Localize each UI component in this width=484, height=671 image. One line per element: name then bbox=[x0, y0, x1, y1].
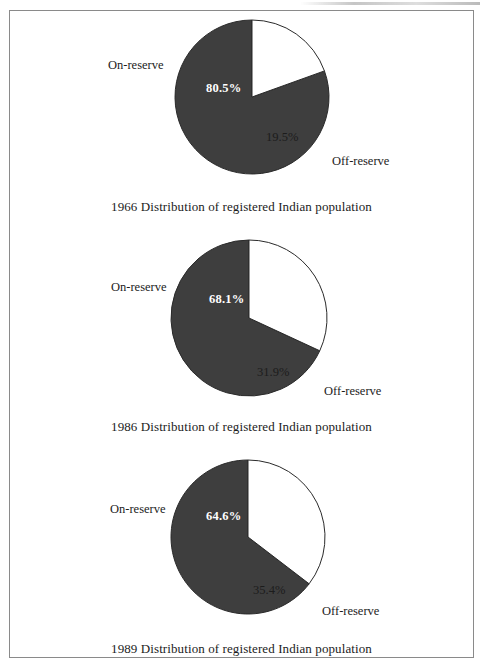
category-label-on-reserve: On-reserve bbox=[111, 280, 167, 295]
category-label-off-reserve: Off-reserve bbox=[322, 604, 379, 619]
slice-value-on-reserve: 64.6% bbox=[206, 509, 241, 524]
slice-value-off-reserve: 19.5% bbox=[266, 130, 298, 145]
slice-value-off-reserve: 31.9% bbox=[257, 365, 289, 380]
pie-slices-1989 bbox=[171, 460, 325, 614]
pie-slices-1966 bbox=[175, 20, 329, 174]
scan-artifact bbox=[300, 2, 480, 5]
slice-value-on-reserve: 80.5% bbox=[206, 81, 241, 96]
pie-area-1989: 64.6% 35.4% On-reserve Off-reserve bbox=[10, 459, 473, 631]
slice-value-off-reserve: 35.4% bbox=[253, 583, 285, 598]
pie-chart-1986: 68.1% 31.9% On-reserve Off-reserve 1986 … bbox=[10, 239, 473, 451]
category-label-off-reserve: Off-reserve bbox=[324, 384, 381, 399]
pie-chart-1989: 64.6% 35.4% On-reserve Off-reserve 1989 … bbox=[10, 459, 473, 671]
pie-area-1966: 80.5% 19.5% On-reserve Off-reserve bbox=[10, 19, 473, 191]
slice-value-on-reserve: 68.1% bbox=[209, 292, 244, 307]
pie-svg-1989 bbox=[170, 459, 326, 615]
category-label-on-reserve: On-reserve bbox=[110, 502, 166, 517]
chart-caption: 1966 Distribution of registered Indian p… bbox=[10, 199, 473, 215]
pie-svg-1966 bbox=[174, 19, 330, 175]
figure-frame: 80.5% 19.5% On-reserve Off-reserve 1966 … bbox=[9, 10, 474, 658]
pie-slices-1986 bbox=[170, 240, 326, 396]
category-label-off-reserve: Off-reserve bbox=[332, 154, 389, 169]
pie-chart-1966: 80.5% 19.5% On-reserve Off-reserve 1966 … bbox=[10, 19, 473, 231]
chart-caption: 1986 Distribution of registered Indian p… bbox=[10, 419, 473, 435]
pie-area-1986: 68.1% 31.9% On-reserve Off-reserve bbox=[10, 239, 473, 411]
chart-caption: 1989 Distribution of registered Indian p… bbox=[10, 641, 473, 657]
pie-svg-1986 bbox=[170, 239, 328, 397]
category-label-on-reserve: On-reserve bbox=[108, 58, 164, 73]
